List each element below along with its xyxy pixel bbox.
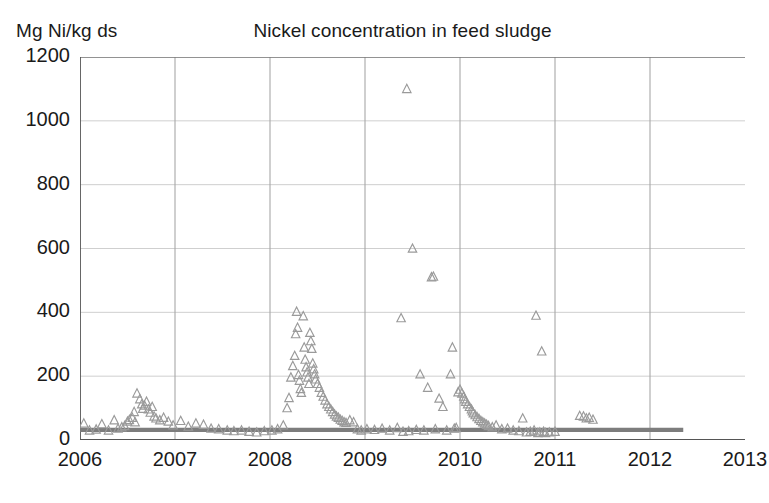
data-markers	[80, 84, 597, 436]
y-tick-label: 1000	[8, 108, 70, 131]
x-tick-label: 2007	[140, 448, 210, 471]
x-tick-label: 2008	[235, 448, 305, 471]
y-tick-label: 600	[8, 236, 70, 259]
y-tick-label: 800	[8, 172, 70, 195]
gridlines	[80, 57, 745, 440]
y-tick-label: 200	[8, 363, 70, 386]
chart-figure: Mg Ni/kg ds Nickel concentration in feed…	[0, 0, 769, 503]
plot-area	[80, 57, 745, 440]
chart-title: Nickel concentration in feed sludge	[0, 20, 769, 42]
y-tick-label: 1200	[8, 44, 70, 67]
scatter-plot-svg	[80, 57, 745, 440]
x-tick-label: 2012	[615, 448, 685, 471]
x-tick-label: 2006	[45, 448, 115, 471]
x-tick-label: 2009	[330, 448, 400, 471]
y-tick-label: 0	[8, 427, 70, 450]
x-tick-label: 2013	[710, 448, 769, 471]
y-tick-label: 400	[8, 299, 70, 322]
x-tick-label: 2011	[520, 448, 590, 471]
x-tick-label: 2010	[425, 448, 495, 471]
